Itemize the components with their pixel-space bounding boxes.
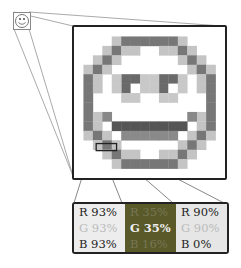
smiley-face-icon [14,13,30,29]
swatch-column-1: R 93% G 93% B 93% [74,204,125,252]
green-value: G 35% [130,221,176,235]
swatch-column-3: R 90% G 90% B 0% [176,204,227,252]
rgb-values-table: R 93% G 93% B 93% R 35% G 35% B 16% R 90… [72,202,229,254]
blue-value: B 16% [130,237,176,251]
green-value: G 90% [181,221,227,235]
green-value: G 93% [79,221,125,235]
blue-value: B 0% [181,237,227,251]
magnified-smiley [72,25,227,180]
red-value: R 93% [79,205,125,219]
smiley-face-pixel-grid [74,27,225,178]
blue-value: B 93% [79,237,125,251]
red-value: R 90% [181,205,227,219]
smiley-thumbnail [13,12,31,30]
swatch-column-2: R 35% G 35% B 16% [125,204,176,252]
red-value: R 35% [130,205,176,219]
